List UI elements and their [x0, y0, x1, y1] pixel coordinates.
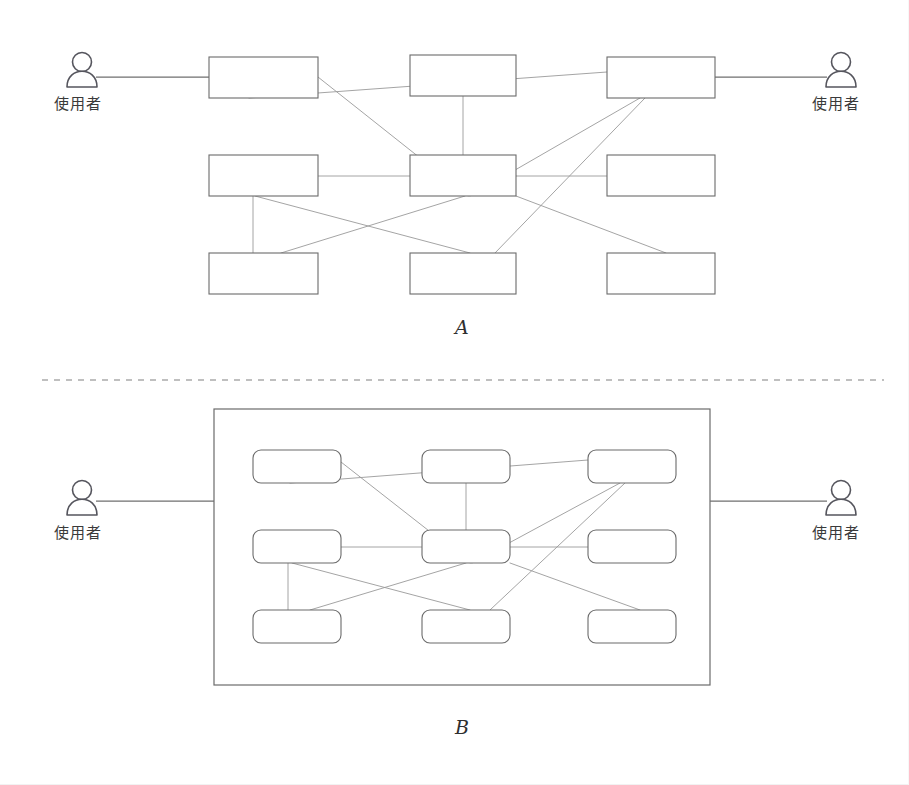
diagram-a-node-a-r3c1[interactable]	[209, 253, 318, 294]
diagram-b-node-b-r2c2[interactable]	[422, 530, 510, 563]
diagram-a-node-a-r2c1[interactable]	[209, 155, 318, 196]
diagram-a-node-a-r2c2[interactable]	[410, 155, 516, 196]
panel-label-a: A	[455, 316, 469, 338]
diagram-canvas	[0, 0, 909, 785]
diagram-a-node-a-r1c2[interactable]	[410, 55, 516, 96]
diagram-b-node-b-r2c3[interactable]	[588, 530, 676, 563]
actor-label-a-left: 使用者	[54, 92, 102, 113]
diagram-a-actor-right-body-icon	[826, 71, 856, 87]
diagram-b-node-group	[253, 450, 676, 643]
diagram-a-node-a-r1c3[interactable]	[607, 57, 715, 98]
diagram-a-edge-9	[516, 196, 666, 253]
diagram-a-actor-left-head-icon	[73, 53, 92, 72]
panel-label-b: B	[455, 716, 469, 738]
diagram-b-actor-right-head-icon	[832, 481, 851, 500]
diagram-a-node-a-r3c3[interactable]	[607, 253, 715, 294]
diagram-b-actor-left-body-icon	[67, 499, 97, 515]
diagram-b-node-b-r3c1[interactable]	[253, 610, 341, 643]
diagram-page: 使用者 使用者 使用者 使用者 A B	[0, 0, 909, 785]
actor-label-b-left: 使用者	[54, 521, 102, 542]
diagram-b-node-b-r3c2[interactable]	[422, 610, 510, 643]
diagram-b-actor-right-body-icon	[826, 499, 856, 515]
diagram-b-actor-left-head-icon	[73, 481, 92, 500]
diagram-b-node-b-r2c1[interactable]	[253, 530, 341, 563]
diagram-b-node-b-r1c1[interactable]	[253, 450, 341, 483]
diagram-b-node-b-r3c3[interactable]	[588, 610, 676, 643]
diagram-a-actor-right-head-icon	[832, 53, 851, 72]
diagram-a-node-a-r1c1[interactable]	[209, 57, 318, 98]
diagram-b-node-b-r1c3[interactable]	[588, 450, 676, 483]
actor-label-a-right: 使用者	[812, 92, 860, 113]
diagram-b-node-b-r1c2[interactable]	[422, 450, 510, 483]
diagram-a-actor-left-body-icon	[67, 71, 97, 87]
diagram-a-node-group	[209, 55, 715, 294]
diagram-a-node-a-r2c3[interactable]	[607, 155, 715, 196]
diagram-a-node-a-r3c2[interactable]	[410, 253, 516, 294]
actor-label-b-right: 使用者	[812, 521, 860, 542]
